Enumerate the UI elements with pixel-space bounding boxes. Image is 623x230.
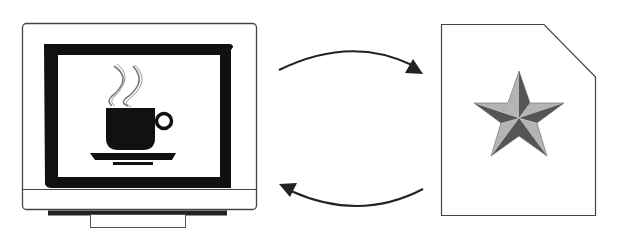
monitor-icon — [23, 24, 257, 228]
document-icon — [442, 25, 596, 216]
arrow-to-monitor — [279, 183, 423, 206]
diagram-canvas — [0, 0, 623, 230]
arrow-to-document — [279, 51, 423, 74]
monitor-stand — [91, 215, 186, 228]
arrowhead-right-icon — [405, 59, 423, 74]
arrowhead-left-icon — [279, 183, 297, 197]
